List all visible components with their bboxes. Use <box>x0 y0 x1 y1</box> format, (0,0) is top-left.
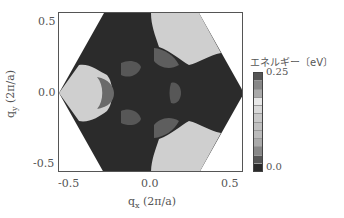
energy-heatmap <box>59 13 243 172</box>
x-tick-0.0: 0.0 <box>141 177 159 190</box>
x-axis-label: qx (2π/a) <box>128 195 176 210</box>
y-tick-0.5: 0.5 <box>38 15 56 28</box>
colorbar-max-label: 0.25 <box>266 66 288 77</box>
colorbar <box>253 72 263 172</box>
colorbar-title: エネルギー〔eV〕 <box>250 54 333 69</box>
colorbar-min-label: 0.0 <box>266 161 282 172</box>
x-tick-0.5: 0.5 <box>221 177 239 190</box>
x-tick-neg-0.5: -0.5 <box>58 177 79 190</box>
y-tick-0.0: 0.0 <box>38 86 56 99</box>
y-axis-label: qy (2π/a) <box>4 70 19 118</box>
plot-frame <box>58 12 243 172</box>
y-tick-neg-0.5: -0.5 <box>33 157 54 170</box>
